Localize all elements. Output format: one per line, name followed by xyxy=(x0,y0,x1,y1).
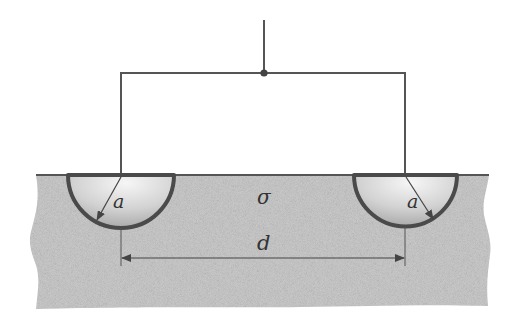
connecting-wire xyxy=(121,73,405,175)
electrode-diagram: a a d σ xyxy=(0,0,519,326)
conductivity-label: σ xyxy=(257,185,272,209)
separation-label: d xyxy=(257,231,270,255)
right-radius-label: a xyxy=(407,190,418,212)
left-radius-label: a xyxy=(113,190,124,212)
wiring xyxy=(121,20,405,175)
junction-dot xyxy=(260,69,267,76)
